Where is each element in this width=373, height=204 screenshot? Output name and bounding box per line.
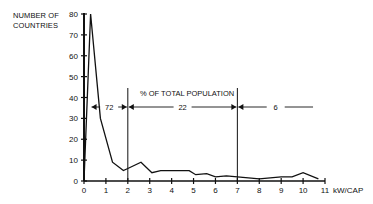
x-tick-label: 6 — [213, 186, 218, 195]
y-tick-label: 70 — [69, 31, 78, 40]
x-tick-label: 1 — [104, 186, 109, 195]
x-tick-label: 9 — [279, 186, 284, 195]
range-label: 6 — [274, 103, 278, 112]
x-tick-label: 2 — [126, 186, 131, 195]
range-label: 22 — [178, 103, 186, 112]
x-tick-label: 0 — [82, 186, 87, 195]
line-chart: 0102030405060708001234567891011kW/CAP% O… — [0, 0, 373, 204]
arrow-left-icon — [129, 104, 134, 110]
arrow-right-icon — [231, 104, 236, 110]
y-tick-label: 30 — [69, 114, 78, 123]
x-tick-label: 3 — [148, 186, 153, 195]
y-tick-label: 50 — [69, 73, 78, 82]
arrow-right-icon — [122, 104, 127, 110]
x-tick-label: 11 — [321, 186, 330, 195]
y-tick-label: 60 — [69, 52, 78, 61]
x-tick-label: 4 — [169, 186, 174, 195]
x-tick-label: 8 — [257, 186, 262, 195]
y-tick-label: 0 — [74, 177, 79, 186]
x-axis-unit: kW/CAP — [333, 186, 363, 195]
population-header: % OF TOTAL POPULATION — [140, 89, 234, 98]
y-tick-label: 20 — [69, 135, 78, 144]
arrow-left-icon — [238, 104, 243, 110]
x-tick-label: 7 — [235, 186, 240, 195]
y-tick-label: 10 — [69, 156, 78, 165]
y-tick-label: 80 — [69, 10, 78, 19]
x-tick-label: 5 — [191, 186, 196, 195]
arrow-left-icon — [92, 104, 97, 110]
y-tick-label: 40 — [69, 94, 78, 103]
x-tick-label: 10 — [299, 186, 308, 195]
range-label: 72 — [105, 103, 113, 112]
